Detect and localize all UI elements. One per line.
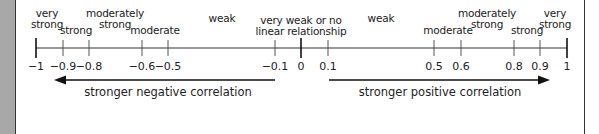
tick-label: 0.6 [452,60,470,73]
positive-correlation-caption: stronger positive correlation [359,85,522,99]
region-label: verystrong [539,8,571,30]
tick-label: 0.1 [319,60,337,73]
region-label: moderatelystrong [458,8,516,30]
region-label: verystrong [31,8,63,30]
tick-label: 0.8 [505,60,523,73]
tick-label: −0.9 [50,60,77,73]
tick-label: 0 [298,60,305,73]
tick-label: −1 [28,60,44,73]
tick-label: −0.1 [262,60,289,73]
negative-arrow [54,76,275,85]
tick-label: −0.6 [129,60,156,73]
region-label: moderate [130,25,180,36]
tick-label: −0.8 [76,60,103,73]
tick-label: −0.5 [155,60,182,73]
tick-label: 1 [564,60,571,73]
tick-label: 0.9 [531,60,549,73]
tick-label: 0.5 [425,60,443,73]
region-label: weak [368,13,395,24]
region-label: very weak or nolinear relationship [256,15,347,37]
region-label: weak [209,13,236,24]
negative-correlation-caption: stronger negative correlation [84,85,252,99]
positive-arrow [329,76,550,85]
